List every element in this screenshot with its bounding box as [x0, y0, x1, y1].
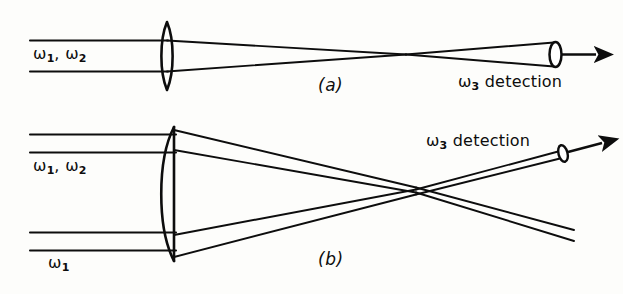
omega-subscript-2: 2: [79, 164, 87, 177]
omega-subscript-1: 1: [62, 261, 70, 274]
panel-a-detection-label: ω3 detection: [458, 74, 562, 92]
ray-a-diverging-bottom: [406, 55, 554, 67]
ray-b-diverging-2: [416, 158, 562, 195]
ray-b-converging-2: [174, 150, 416, 193]
ray-b-converging-3: [174, 190, 416, 236]
arrow-b-output: [568, 143, 602, 152]
ray-a-diverging-top: [406, 43, 554, 55]
detection-word: detection: [447, 131, 530, 150]
ray-b-diverging-3: [416, 188, 574, 231]
panel-b-detection-label: ω3 detection: [426, 133, 530, 151]
omega-separator: , ω: [54, 44, 78, 63]
panel-b-caption: (b): [318, 251, 344, 268]
detector-aperture-a-icon: [550, 42, 562, 67]
omega-glyph: ω: [33, 44, 47, 63]
ray-b-converging-4: [174, 195, 416, 258]
omega-glyph: ω: [426, 131, 440, 150]
ray-b-diverging-4: [416, 193, 574, 242]
panel-a-input-beam-label: ω1, ω2: [33, 46, 87, 64]
omega-glyph: ω: [458, 72, 472, 91]
detection-word: detection: [479, 72, 562, 91]
omega-glyph: ω: [48, 253, 62, 272]
panel-a-caption: (a): [318, 77, 343, 94]
panel-b-lower-beam-label: ω1: [48, 255, 69, 273]
detector-aperture-b-icon: [557, 144, 570, 163]
figure-root: ω1, ω2 ω3 detection (a) ω1, ω2 ω1 ω3 det…: [0, 0, 623, 294]
ray-a-converging-top: [167, 41, 406, 55]
lens-a-biconvex: [161, 22, 172, 90]
ray-b-diverging-1: [416, 151, 560, 190]
omega-subscript-2: 2: [79, 52, 87, 65]
panel-b-upper-beam-label: ω1, ω2: [33, 158, 87, 176]
omega-separator: , ω: [54, 156, 78, 175]
lens-b-plano-convex: [161, 127, 174, 261]
ray-a-converging-bottom: [167, 55, 406, 72]
omega-glyph: ω: [33, 156, 47, 175]
ray-b-converging-1: [174, 130, 416, 188]
